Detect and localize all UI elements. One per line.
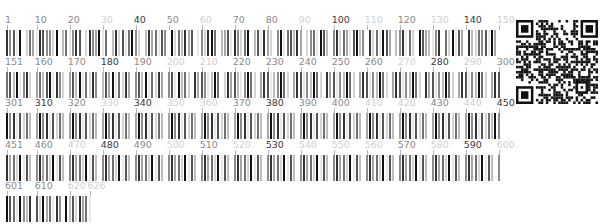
position-bar bbox=[270, 72, 272, 98]
position-bar bbox=[445, 155, 447, 181]
position-bar bbox=[445, 72, 447, 98]
position-bar bbox=[422, 30, 424, 56]
position-bar bbox=[247, 113, 249, 139]
position-bar bbox=[125, 155, 127, 181]
position-bar bbox=[478, 72, 480, 98]
position-bar bbox=[346, 155, 348, 181]
position-bar bbox=[290, 113, 292, 139]
position-bar bbox=[455, 72, 457, 98]
position-bar bbox=[141, 113, 143, 139]
position-bar bbox=[267, 72, 269, 98]
position-bar bbox=[458, 30, 460, 56]
position-bar bbox=[326, 30, 328, 56]
position-bar bbox=[310, 155, 312, 181]
position-bar bbox=[36, 196, 38, 222]
position-bar bbox=[36, 113, 38, 139]
position-bar bbox=[36, 30, 38, 56]
position-bar bbox=[346, 72, 348, 98]
position-bar bbox=[392, 113, 394, 139]
position-bar bbox=[230, 113, 232, 139]
position-bar bbox=[135, 30, 137, 56]
position-bar bbox=[98, 72, 100, 98]
position-bar bbox=[230, 30, 232, 56]
position-bar bbox=[42, 72, 44, 98]
position-bar bbox=[131, 30, 133, 56]
position-bar bbox=[395, 113, 397, 139]
position-bar bbox=[79, 113, 81, 139]
position-bar bbox=[372, 155, 374, 181]
position-bar bbox=[471, 155, 473, 181]
position-bar bbox=[290, 155, 292, 181]
position-bar bbox=[382, 72, 384, 98]
position-bar bbox=[458, 72, 460, 98]
position-bar bbox=[108, 113, 110, 139]
position-bar bbox=[458, 155, 460, 181]
position-bar bbox=[465, 30, 467, 56]
position-bar bbox=[52, 196, 54, 222]
position-bar bbox=[82, 30, 84, 56]
position-bar bbox=[498, 155, 500, 181]
position-bar bbox=[372, 113, 374, 139]
position-bar bbox=[9, 113, 11, 139]
position-bar bbox=[320, 155, 322, 181]
position-bar bbox=[395, 30, 397, 56]
position-bar bbox=[181, 30, 183, 56]
position-bar bbox=[359, 113, 361, 139]
position-bar bbox=[432, 155, 434, 181]
position-bar bbox=[250, 72, 252, 98]
position-bar bbox=[296, 155, 298, 181]
position-bar bbox=[72, 72, 74, 98]
position-bar bbox=[148, 72, 150, 98]
position-bar bbox=[194, 155, 196, 181]
position-bar bbox=[234, 155, 236, 181]
position-bar bbox=[356, 155, 358, 181]
position-bar bbox=[115, 113, 117, 139]
position-bar bbox=[16, 113, 18, 139]
position-bar bbox=[122, 113, 124, 139]
position-bar bbox=[13, 72, 15, 98]
position-bar bbox=[438, 113, 440, 139]
position-bar bbox=[230, 72, 232, 98]
position-bar bbox=[214, 72, 216, 98]
position-bar bbox=[181, 72, 183, 98]
position-bar bbox=[85, 113, 87, 139]
position-bar bbox=[488, 155, 490, 181]
position-bar bbox=[171, 113, 173, 139]
position-bar bbox=[376, 30, 378, 56]
position-bar bbox=[89, 30, 91, 56]
position-bar bbox=[442, 155, 444, 181]
position-bar bbox=[448, 30, 450, 56]
position-bar bbox=[26, 113, 28, 139]
position-bar bbox=[36, 155, 38, 181]
position-bar bbox=[108, 72, 110, 98]
position-bar bbox=[349, 72, 351, 98]
position-bar bbox=[135, 155, 137, 181]
position-bar bbox=[323, 72, 325, 98]
position-bar bbox=[478, 155, 480, 181]
position-bar bbox=[201, 72, 203, 98]
position-bar bbox=[273, 155, 275, 181]
position-bar bbox=[392, 155, 394, 181]
position-bar bbox=[461, 113, 463, 139]
position-bar bbox=[217, 30, 219, 56]
position-bar bbox=[442, 72, 444, 98]
position-bar bbox=[419, 155, 421, 181]
position-bar bbox=[267, 113, 269, 139]
position-bar bbox=[333, 155, 335, 181]
position-bar bbox=[204, 155, 206, 181]
position-bar bbox=[158, 155, 160, 181]
position-bar bbox=[273, 30, 275, 56]
position-bar bbox=[188, 113, 190, 139]
position-bar bbox=[422, 113, 424, 139]
position-bar bbox=[49, 155, 51, 181]
position-bar bbox=[280, 30, 282, 56]
position-bar bbox=[122, 30, 124, 56]
position-bar bbox=[432, 30, 434, 56]
position-bar bbox=[346, 30, 348, 56]
position-bar bbox=[36, 72, 38, 98]
position-bar bbox=[42, 196, 44, 222]
position-bar bbox=[485, 30, 487, 56]
position-bar bbox=[164, 113, 166, 139]
position-bar bbox=[204, 30, 206, 56]
sequence-row: 601610620626 bbox=[6, 180, 92, 222]
